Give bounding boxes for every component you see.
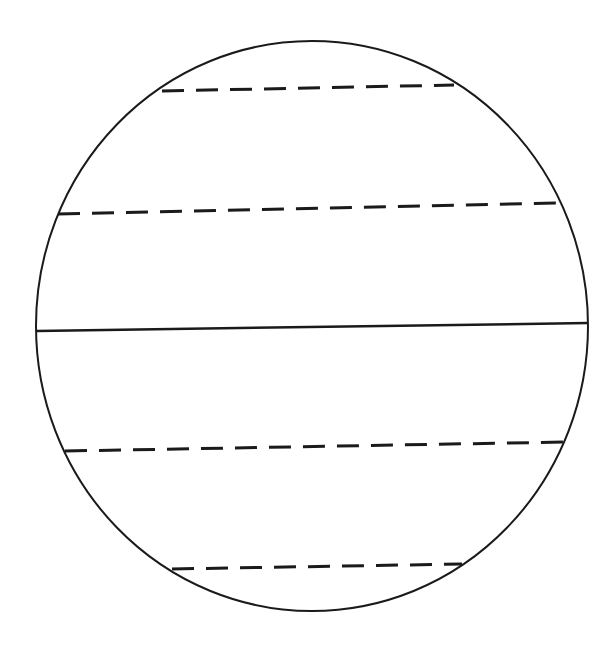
chord-lines xyxy=(37,85,588,569)
circle-diagram xyxy=(0,0,616,651)
dashed-line-1 xyxy=(162,85,454,91)
dashed-line-4 xyxy=(172,564,462,569)
dashed-line-2 xyxy=(58,203,558,214)
solid-diameter-line xyxy=(37,323,588,331)
dashed-line-3 xyxy=(65,442,564,451)
